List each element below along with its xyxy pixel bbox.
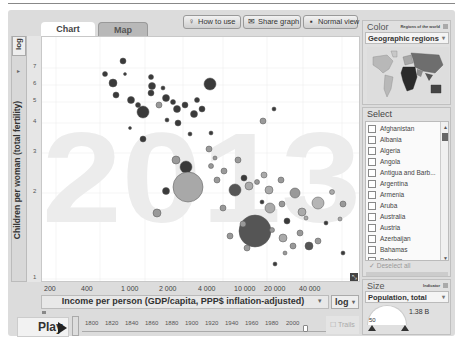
size-panel: Size Indicator Population, total ▾ 1.38 …	[362, 279, 451, 335]
color-selected-value: Geographic regions	[368, 34, 439, 43]
checkbox[interactable]	[368, 191, 376, 199]
timeline-year: 2000	[286, 320, 299, 326]
timeline-year: 1920	[205, 320, 218, 326]
country-label: Algeria	[380, 147, 400, 154]
timeline-year: 1820	[105, 320, 118, 326]
country-label: Antigua and Barb...	[380, 169, 436, 176]
country-label: Angola	[380, 158, 400, 165]
x-tick: 400	[81, 285, 93, 292]
lightbulb-icon: ♀	[187, 18, 196, 26]
timeline-year: 1860	[145, 320, 158, 326]
trails-checkbox[interactable]: ☐ Trails	[326, 316, 359, 334]
checkbox[interactable]	[368, 257, 376, 261]
trails-label: Trails	[338, 321, 355, 328]
checkbox[interactable]	[368, 202, 376, 210]
country-label: Afghanistan	[380, 125, 414, 132]
country-item-azerbaijan[interactable]: Azerbaijan	[368, 234, 411, 245]
country-item-australia[interactable]: Australia	[368, 212, 405, 223]
timeline-slider-handle[interactable]	[303, 325, 308, 332]
share-graph-label: Share graph	[258, 17, 299, 26]
size-indicator-select[interactable]: Population, total ▾	[365, 291, 449, 303]
checkbox[interactable]	[368, 235, 376, 243]
y-tick: 4	[33, 118, 36, 124]
color-indicator-select[interactable]: Geographic regions ▾	[365, 32, 449, 44]
timeline-year: 1940	[225, 320, 238, 326]
checkbox[interactable]	[368, 246, 376, 254]
country-label: Bahamas	[380, 246, 407, 253]
checkbox[interactable]	[368, 169, 376, 177]
x-axis-indicator-icon	[42, 311, 46, 314]
how-to-use-label: How to use	[198, 17, 236, 26]
y-tick: 6	[33, 80, 36, 86]
country-item-armenia[interactable]: Armenia	[368, 190, 404, 201]
size-panel-subtitle: Indicator	[423, 283, 440, 288]
color-info-icon[interactable]	[443, 24, 448, 29]
x-scale-select[interactable]: log ▾	[331, 295, 359, 309]
country-item-afghanistan[interactable]: Afghanistan	[368, 124, 414, 135]
size-min-handle[interactable]	[368, 325, 376, 331]
x-axis-label[interactable]: Income per person (GDP/capita, PPP$ infl…	[48, 296, 318, 306]
expand-chart-icon[interactable]: ⤡	[350, 273, 358, 281]
y-axis-ticks	[27, 36, 41, 282]
y-scale-select[interactable]: log	[12, 36, 26, 56]
checkbox[interactable]	[368, 213, 376, 221]
country-item-angola[interactable]: Angola	[368, 157, 400, 168]
x-tick: 40 000	[299, 285, 320, 292]
deselect-all-button[interactable]: ✓ Deselect all	[369, 262, 410, 270]
checkbox[interactable]	[368, 158, 376, 166]
country-item-bahrain[interactable]: Bahrain	[368, 256, 402, 261]
country-item-austria[interactable]: Austria	[368, 223, 400, 234]
scrollbar-thumb[interactable]	[442, 133, 448, 141]
share-graph-button[interactable]: ✉ Share graph	[243, 15, 301, 29]
color-panel-subtitle: Regions of the world	[400, 24, 440, 29]
top-divider	[8, 3, 455, 4]
timeline-year: 1980	[265, 320, 278, 326]
country-label: Aruba	[380, 202, 397, 209]
normal-view-button[interactable]: ▪ Normal view	[303, 15, 358, 29]
x-tick: 200	[44, 285, 56, 292]
how-to-use-button[interactable]: ♀ How to use	[183, 15, 241, 29]
country-item-antigua[interactable]: Antigua and Barb...	[368, 168, 436, 179]
country-list[interactable]: Afghanistan Albania Algeria Angola Antig…	[365, 121, 449, 261]
timeline-year: 1960	[245, 320, 258, 326]
country-item-argentina[interactable]: Argentina	[368, 179, 408, 190]
tab-chart[interactable]: Chart	[41, 22, 95, 37]
y-tick: 3	[33, 148, 36, 154]
scroll-up-icon[interactable]: ▲	[443, 124, 448, 130]
x-dropdown-arrow-icon[interactable]: ▾	[318, 297, 322, 305]
x-tick: 20 000	[264, 285, 285, 292]
bubble-chart-plot[interactable]: 2013	[41, 36, 360, 282]
timeline-year: 1840	[125, 320, 138, 326]
timeline-year: 1900	[185, 320, 198, 326]
speed-slider[interactable]	[72, 316, 79, 336]
x-tick: 1 000	[121, 285, 139, 292]
checkbox[interactable]	[368, 136, 376, 144]
timeline-year: 1800	[85, 320, 98, 326]
country-list-scrollbar[interactable]: ▲ ▼	[440, 122, 448, 261]
scroll-down-icon[interactable]: ▼	[443, 255, 448, 261]
year-watermark: 2013	[42, 106, 360, 249]
country-item-bahamas[interactable]: Bahamas	[368, 245, 407, 256]
y-axis-label[interactable]: Children per woman (total fertility)	[12, 70, 22, 270]
country-label: Austria	[380, 224, 400, 231]
timeline-track[interactable]	[82, 331, 327, 332]
x-tick: 10 000	[234, 285, 255, 292]
tab-map[interactable]: Map	[98, 22, 148, 36]
checkbox[interactable]	[368, 180, 376, 188]
country-item-aruba[interactable]: Aruba	[368, 201, 397, 212]
size-max-value: 1.38 B	[409, 308, 429, 315]
world-region-map[interactable]	[367, 47, 449, 103]
size-max-handle[interactable]	[401, 325, 409, 331]
chevron-down-icon: ▾	[442, 33, 445, 44]
checkbox[interactable]	[368, 224, 376, 232]
play-icon[interactable]	[58, 322, 67, 334]
country-label: Argentina	[380, 180, 408, 187]
size-info-icon[interactable]	[443, 283, 448, 288]
country-item-albania[interactable]: Albania	[368, 135, 402, 146]
checkbox[interactable]	[368, 147, 376, 155]
country-item-algeria[interactable]: Algeria	[368, 146, 400, 157]
select-panel: Select Afghanistan Albania Algeria Angol…	[362, 107, 451, 277]
checkbox[interactable]	[368, 125, 376, 133]
bubble-chart-svg: 2013	[42, 37, 360, 282]
country-label: Azerbaijan	[380, 235, 411, 242]
